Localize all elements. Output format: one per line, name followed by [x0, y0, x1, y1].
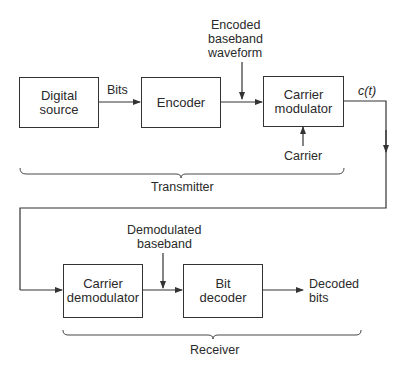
ct-label: c(t) [358, 84, 376, 98]
digital-source-label-1: Digital [41, 89, 77, 103]
encoded-label-2: baseband [208, 32, 263, 46]
carrier-demodulator-label-1: Carrier [83, 277, 123, 291]
encoder-block: Encoder [141, 77, 221, 128]
carrier-demodulator-block: Carrier demodulator [63, 264, 143, 318]
decoded-label-2: bits [309, 291, 328, 305]
encoded-label-3: waveform [208, 46, 262, 60]
demod-label-1: Demodulated [127, 223, 201, 237]
digital-source-label-2: source [39, 103, 78, 117]
encoded-label-1: Encoded [211, 18, 260, 32]
transmitter-brace [20, 168, 344, 178]
carrier-label: Carrier [284, 149, 322, 163]
bits-label: Bits [107, 83, 128, 97]
demod-label-2: baseband [137, 237, 192, 251]
digital-source-block: Digital source [19, 77, 99, 128]
transmitter-label: Transmitter [151, 180, 214, 194]
carrier-demodulator-label-2: demodulator [67, 291, 139, 305]
bit-decoder-label-2: decoder [200, 291, 247, 305]
carrier-modulator-label-1: Carrier [284, 88, 324, 102]
carrier-modulator-block: Carrier modulator [263, 76, 344, 127]
receiver-brace [63, 330, 361, 339]
decoded-label-1: Decoded [309, 277, 359, 291]
bit-decoder-label-1: Bit [215, 277, 230, 291]
bit-decoder-block: Bit decoder [183, 264, 263, 318]
encoder-label: Encoder [157, 96, 205, 110]
receiver-label: Receiver [190, 343, 239, 357]
carrier-modulator-label-2: modulator [275, 102, 333, 116]
channel-path [20, 101, 386, 290]
